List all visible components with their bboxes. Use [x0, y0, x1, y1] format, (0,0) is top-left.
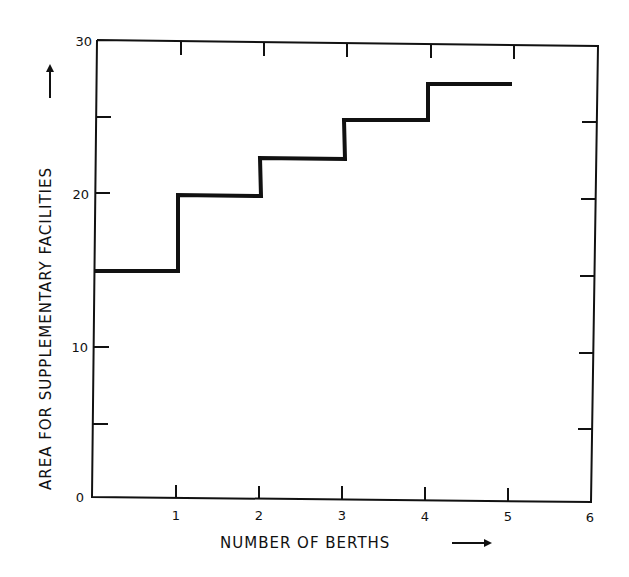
x-axis-title: NUMBER OF BERTHS	[220, 534, 390, 552]
y-axis-arrow-icon	[46, 64, 54, 98]
y-tick-label-10: 10	[71, 340, 88, 355]
x-tick-label-2: 2	[255, 508, 263, 523]
y-tick-label-0: 0	[76, 490, 84, 505]
step-chart: 0 10 20 30 1 2 3 4 5 6 NUMBER OF BERTHS …	[0, 0, 629, 577]
y-tick-labels: 0 10 20 30	[71, 34, 92, 505]
x-tick-labels: 1 2 3 4 5 6	[172, 508, 594, 525]
x-tick-label-4: 4	[421, 509, 429, 524]
x-tick-label-1: 1	[172, 508, 180, 523]
y-tick-label-30: 30	[75, 34, 92, 49]
x-axis-arrow-icon	[452, 539, 492, 547]
x-tick-label-5: 5	[504, 509, 512, 524]
y-axis-ticks-right	[578, 122, 597, 429]
step-series-line	[95, 84, 512, 271]
y-tick-label-20: 20	[72, 187, 89, 202]
x-tick-label-3: 3	[338, 508, 346, 523]
x-tick-label-6: 6	[586, 510, 594, 525]
y-axis-title: AREA FOR SUPPLEMENTARY FACILITIES	[37, 167, 55, 490]
